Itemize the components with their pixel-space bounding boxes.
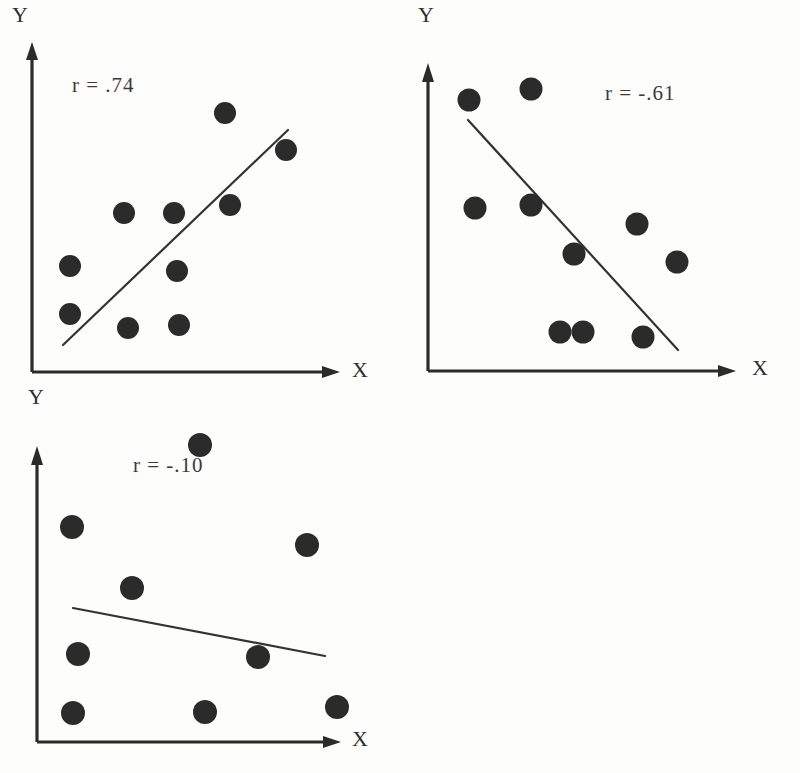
data-point bbox=[219, 194, 241, 216]
data-point bbox=[193, 700, 217, 724]
data-point bbox=[60, 515, 84, 539]
scatterplot-panel-positive: Y r = .74 X bbox=[0, 0, 400, 395]
data-point bbox=[120, 576, 144, 600]
y-axis-arrowhead bbox=[422, 63, 434, 82]
data-point bbox=[572, 321, 595, 344]
scatterplot-panel-none: Y r = -.10 X bbox=[0, 378, 400, 773]
data-point bbox=[61, 701, 85, 725]
trend-line bbox=[63, 130, 288, 345]
panel-plot-area bbox=[0, 0, 400, 395]
data-point bbox=[520, 194, 543, 217]
data-point bbox=[168, 314, 190, 336]
data-point bbox=[163, 202, 185, 224]
data-point bbox=[464, 197, 487, 220]
x-axis-arrowhead bbox=[323, 736, 341, 748]
data-point bbox=[246, 645, 270, 669]
data-point bbox=[626, 213, 649, 236]
data-point bbox=[549, 321, 572, 344]
y-axis-label: Y bbox=[418, 4, 434, 26]
data-point bbox=[325, 695, 349, 719]
data-point bbox=[666, 251, 689, 274]
correlation-annotation: r = .74 bbox=[72, 75, 135, 96]
data-point bbox=[275, 139, 297, 161]
data-point bbox=[632, 326, 655, 349]
data-point bbox=[166, 260, 188, 282]
data-point bbox=[59, 303, 81, 325]
y-axis-label: Y bbox=[28, 386, 44, 408]
y-axis-arrowhead bbox=[26, 42, 38, 60]
data-point bbox=[117, 317, 139, 339]
trend-line bbox=[73, 608, 325, 656]
y-axis-label: Y bbox=[12, 4, 28, 26]
x-axis-arrowhead bbox=[322, 366, 340, 378]
x-axis-label: X bbox=[752, 357, 768, 379]
data-point bbox=[214, 102, 236, 124]
figure-canvas: Y r = .74 X Y r = -.61 bbox=[0, 0, 800, 773]
data-point bbox=[520, 78, 543, 101]
scatterplot-panel-negative: Y r = -.61 X bbox=[400, 0, 800, 395]
data-point bbox=[563, 243, 586, 266]
data-point bbox=[458, 89, 481, 112]
x-axis-arrowhead bbox=[718, 365, 736, 377]
panel-plot-area bbox=[400, 0, 800, 395]
x-axis-label: X bbox=[352, 728, 368, 750]
data-point bbox=[295, 533, 319, 557]
data-point bbox=[113, 202, 135, 224]
trend-line bbox=[468, 120, 678, 350]
correlation-annotation: r = -.10 bbox=[133, 455, 204, 476]
y-axis-arrowhead bbox=[31, 446, 43, 465]
data-point bbox=[66, 642, 90, 666]
correlation-annotation: r = -.61 bbox=[605, 83, 676, 104]
data-point bbox=[59, 255, 81, 277]
panel-plot-area bbox=[0, 378, 400, 773]
